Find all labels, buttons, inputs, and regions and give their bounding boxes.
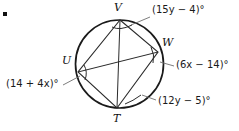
angle-label-t: (12y − 5)°	[158, 96, 211, 106]
leader-line-angle-v	[131, 17, 150, 25]
vertex-label-w: W	[162, 37, 173, 48]
vertex-label-v: V	[114, 2, 122, 13]
vertex-label-t: T	[113, 113, 120, 124]
angle-label-u: (14 + 4x)°	[6, 79, 59, 89]
vertex-label-u: U	[62, 55, 71, 66]
angle-label-v: (15y − 4)°	[152, 5, 205, 15]
arc-mark-t-icon	[125, 95, 141, 104]
leader-line-angle-u	[63, 76, 80, 85]
leader-line-angle-w	[160, 62, 174, 66]
angle-label-w: (6x − 14)°	[176, 60, 229, 70]
diagonal-v-t	[117, 20, 120, 108]
